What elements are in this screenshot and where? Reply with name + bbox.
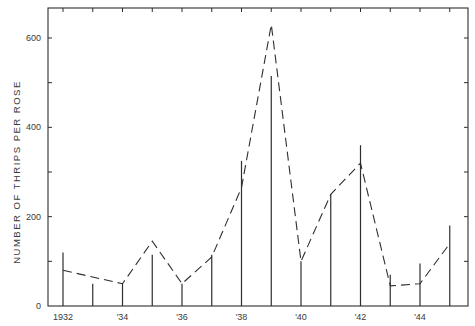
x-tick-label: '44	[414, 312, 426, 322]
plot-frame	[48, 8, 468, 306]
x-tick-label: '42	[355, 312, 367, 322]
plot-border	[48, 8, 468, 306]
y-tick-label: 600	[26, 33, 41, 43]
thrips-chart: 0200400600 1932'34'36'38'40'42'44 NUMBER…	[0, 0, 475, 326]
observed-vertical-lines	[63, 76, 450, 306]
x-tick-label: '38	[236, 312, 248, 322]
x-tick-label: '34	[117, 312, 129, 322]
x-tick-label: '40	[295, 312, 307, 322]
x-tick-label: '36	[176, 312, 188, 322]
y-axis: 0200400600	[26, 33, 468, 311]
x-tick-label: 1932	[53, 312, 73, 322]
y-axis-title: NUMBER OF THRIPS PER ROSE	[11, 80, 22, 264]
y-tick-label: 200	[26, 212, 41, 222]
y-tick-label: 400	[26, 122, 41, 132]
predicted-polyline	[63, 25, 450, 286]
predicted-dashed-line	[63, 25, 450, 286]
y-tick-label: 0	[36, 301, 41, 311]
